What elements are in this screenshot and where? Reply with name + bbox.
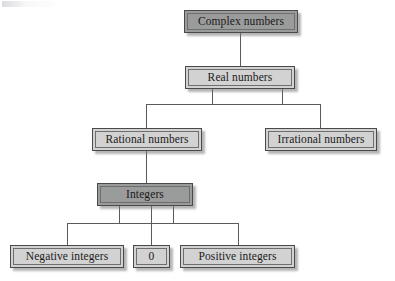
node-rational-numbers: Rational numbers xyxy=(92,128,202,151)
edge-integers-to-positive xyxy=(238,223,239,245)
node-label: Positive integers xyxy=(198,251,276,263)
edge-integers-stub-left xyxy=(119,205,120,223)
edge-integers-stub-right xyxy=(173,205,174,223)
node-real-numbers: Real numbers xyxy=(185,66,295,89)
edge-real-to-rational xyxy=(146,104,147,128)
node-integers: Integers xyxy=(97,183,193,206)
edge-real-stub-right xyxy=(282,88,283,104)
node-label: Real numbers xyxy=(208,72,273,84)
edge-rational-to-integers xyxy=(146,150,147,183)
edge-integers-bus xyxy=(67,223,238,224)
node-label: Complex numbers xyxy=(198,16,284,28)
scan-artifact xyxy=(2,1,62,7)
node-label: 0 xyxy=(149,251,155,263)
node-positive-integers: Positive integers xyxy=(180,245,295,268)
node-label: Irrational numbers xyxy=(277,134,364,146)
node-label: Integers xyxy=(126,189,164,201)
edge-integers-to-zero xyxy=(151,205,152,245)
edge-complex-to-real xyxy=(240,32,241,66)
node-label: Rational numbers xyxy=(105,134,188,146)
number-classification-diagram: Complex numbers Real numbers Rational nu… xyxy=(0,0,395,281)
node-label: Negative integers xyxy=(26,251,109,263)
edge-integers-to-negative xyxy=(67,223,68,245)
edge-real-to-irrational xyxy=(320,104,321,128)
edge-real-stub-left xyxy=(212,88,213,104)
edge-real-bus xyxy=(146,104,320,105)
node-irrational-numbers: Irrational numbers xyxy=(265,128,377,151)
node-negative-integers: Negative integers xyxy=(10,245,124,268)
node-complex-numbers: Complex numbers xyxy=(184,10,298,33)
node-zero: 0 xyxy=(133,245,170,268)
